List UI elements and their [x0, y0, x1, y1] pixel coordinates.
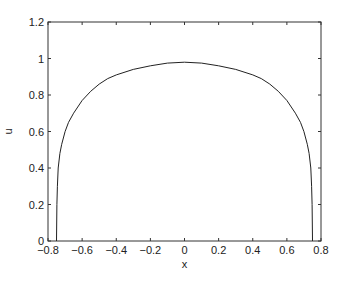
x-axis-label: x: [182, 258, 188, 270]
y-tick-label: 0.4: [29, 162, 44, 174]
chart: −0.8−0.6−0.4−0.200.20.40.60.800.20.40.60…: [0, 0, 341, 281]
x-tick-label: 0.8: [313, 244, 328, 256]
y-tick-label: 0.2: [29, 199, 44, 211]
x-tick-label: 0.4: [245, 244, 260, 256]
x-tick-label: −0.2: [140, 244, 162, 256]
x-tick-label: 0.2: [211, 244, 226, 256]
data-line: [57, 62, 313, 241]
y-tick-label: 0: [38, 235, 44, 247]
x-tick-label: 0: [181, 244, 187, 256]
x-tick-label: −0.6: [71, 244, 93, 256]
y-tick-label: 0.8: [29, 89, 44, 101]
axes-box: [48, 22, 321, 241]
y-tick-label: 1: [38, 53, 44, 65]
x-tick-label: −0.4: [105, 244, 127, 256]
y-tick-label: 1.2: [29, 16, 44, 28]
y-tick-label: 0.6: [29, 126, 44, 138]
x-tick-label: 0.6: [279, 244, 294, 256]
y-axis-label: u: [2, 128, 14, 134]
